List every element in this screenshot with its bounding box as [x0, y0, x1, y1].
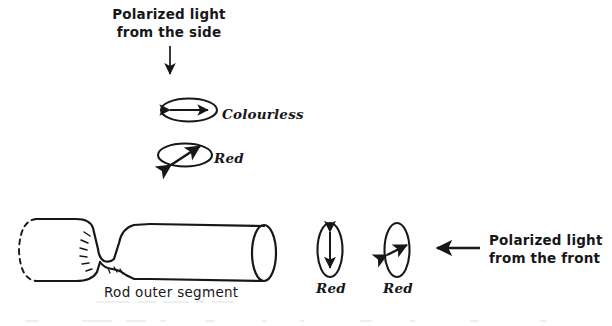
rod-outer-segment-diagram: [19, 219, 276, 281]
red-front-vertical-ellipse-icon: [318, 223, 343, 277]
red-front-diagonal-ellipse-icon: [385, 223, 410, 277]
polarized-light-front-label-line2: from the front: [489, 250, 600, 267]
red-side-label: Red: [214, 150, 244, 166]
cylinder-bottom-edge: [150, 279, 264, 281]
red-side-ellipse-icon: [158, 144, 212, 167]
polarized-light-front-label-line1: Polarized light: [489, 232, 603, 249]
inner-segment-dashed-outline: [19, 219, 46, 281]
cylinder-top-edge: [150, 224, 264, 226]
red-front-diagonal-label: Red: [383, 280, 413, 296]
polarized-light-side-label-line2: from the side: [108, 24, 230, 41]
figure-lineart: [0, 0, 612, 326]
striation-hatch-marks: [80, 232, 92, 271]
figure-canvas: Polarized light from the side Colourless…: [0, 0, 612, 326]
scan-artifact-strip: [0, 300, 612, 326]
cylinder-end-cap: [252, 225, 276, 281]
inner-segment-top-edge: [36, 219, 98, 249]
neck-base-hatch-marks: [108, 267, 123, 274]
inner-segment-bottom-edge: [36, 262, 100, 281]
cilium-neck-upper: [98, 224, 150, 262]
polarized-light-side-label-line1: Polarized light: [108, 6, 230, 23]
rod-outer-segment-caption: Rod outer segment: [104, 284, 238, 300]
colourless-label: Colourless: [222, 106, 304, 122]
cilium-neck-lower: [100, 262, 150, 279]
colourless-ellipse-icon: [161, 99, 217, 122]
red-front-vertical-label: Red: [316, 280, 346, 296]
